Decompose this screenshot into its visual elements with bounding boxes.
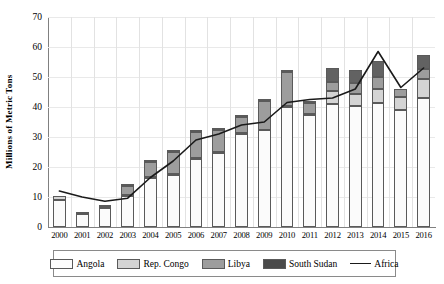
y-tick-label: 30: [16, 133, 42, 142]
legend-line-icon: [350, 263, 371, 264]
legend-item-rep-congo[interactable]: Rep. Congo: [117, 259, 188, 269]
legend-label: Angola: [76, 259, 104, 269]
x-axis-line: [48, 227, 436, 228]
y-tick-label: 10: [16, 193, 42, 202]
y-tick-label: 50: [16, 73, 42, 82]
legend-label: Rep. Congo: [143, 259, 188, 269]
legend-swatch-icon: [50, 259, 73, 269]
chart-root: Millions of Metric Tons 010203040506070 …: [0, 0, 444, 284]
legend-swatch-icon: [117, 259, 140, 269]
y-axis-title: Millions of Metric Tons: [2, 52, 16, 192]
legend-label: South Sudan: [289, 259, 337, 269]
chart-legend: AngolaRep. CongoLibyaSouth SudanAfrica: [53, 250, 396, 277]
x-tick-label: 2016: [409, 231, 439, 240]
plot-area: [48, 17, 435, 227]
y-tick-label: 60: [16, 43, 42, 52]
legend-swatch-icon: [263, 259, 286, 269]
legend-swatch-icon: [202, 259, 225, 269]
africa-line-series: [48, 17, 435, 227]
legend-item-south-sudan[interactable]: South Sudan: [263, 259, 337, 269]
y-tick-label: 20: [16, 163, 42, 172]
y-tick-label: 0: [16, 223, 42, 232]
y-tick-label: 70: [16, 13, 42, 22]
legend-item-libya[interactable]: Libya: [202, 259, 250, 269]
legend-item-africa[interactable]: Africa: [350, 259, 398, 269]
y-tick-label: 40: [16, 103, 42, 112]
legend-item-angola[interactable]: Angola: [50, 259, 104, 269]
legend-label: Africa: [374, 259, 398, 269]
legend-label: Libya: [228, 259, 250, 269]
